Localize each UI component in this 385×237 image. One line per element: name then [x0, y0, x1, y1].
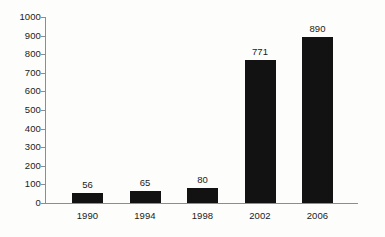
y-axis-tick-label: 500 — [1, 105, 41, 115]
y-axis-tick — [41, 129, 46, 130]
bar-value-label: 56 — [63, 180, 113, 190]
bar — [72, 193, 103, 203]
y-axis-tick-label: 100 — [1, 179, 41, 189]
x-axis-category-label: 1990 — [60, 211, 116, 221]
y-axis-tick — [41, 17, 46, 18]
bar — [130, 191, 161, 203]
y-axis-tick — [41, 54, 46, 55]
y-axis-tick-label: 400 — [1, 124, 41, 134]
bar-value-label: 65 — [120, 178, 170, 188]
y-axis-tick-label: 600 — [1, 86, 41, 96]
y-axis-tick — [41, 73, 46, 74]
y-axis-tick-label: 1000 — [1, 12, 41, 22]
bar — [302, 37, 333, 203]
y-axis-tick — [41, 110, 46, 111]
y-axis-tick-label: 700 — [1, 68, 41, 78]
plot-area: 10009008007006005004003002001000 5619906… — [0, 0, 385, 237]
x-axis-category-label: 2002 — [232, 211, 288, 221]
y-axis-tick-label: 300 — [1, 142, 41, 152]
x-axis-line — [45, 203, 358, 204]
x-axis-category-label: 2006 — [290, 211, 346, 221]
y-axis-tick — [41, 91, 46, 92]
y-axis-tick-label: 0 — [1, 198, 41, 208]
y-axis-tick — [41, 184, 46, 185]
bar-chart: 10009008007006005004003002001000 5619906… — [0, 0, 385, 237]
y-axis-tick-label: 200 — [1, 161, 41, 171]
bar — [187, 188, 218, 203]
bar — [245, 60, 276, 203]
y-axis-tick — [41, 147, 46, 148]
y-axis-tick-label: 900 — [1, 31, 41, 41]
y-axis-tick-label: 800 — [1, 49, 41, 59]
y-axis-tick — [41, 166, 46, 167]
bar-value-label: 80 — [178, 175, 228, 185]
y-axis-tick — [41, 36, 46, 37]
bar-value-label: 890 — [293, 24, 343, 34]
x-axis-category-label: 1994 — [117, 211, 173, 221]
bar-value-label: 771 — [235, 47, 285, 57]
y-axis-tick — [41, 203, 46, 204]
x-axis-category-label: 1998 — [175, 211, 231, 221]
